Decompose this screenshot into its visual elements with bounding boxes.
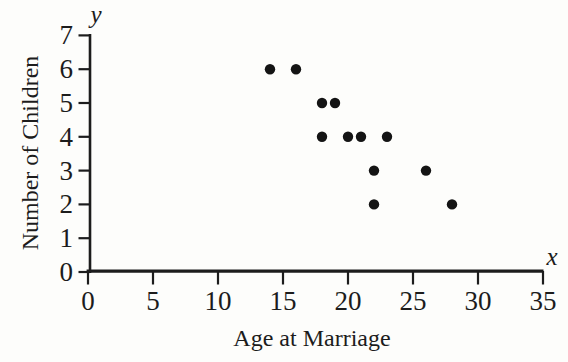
data-point [369,165,379,175]
x-tick-label: 25 [400,286,427,316]
y-tick-label: 4 [60,122,74,152]
x-axis-title: Age at Marriage [233,326,390,350]
data-point [447,199,457,209]
y-tick-label: 5 [60,88,74,118]
data-point [317,132,327,142]
x-tick-label: 5 [146,286,160,316]
data-point [421,165,431,175]
x-axis-symbol: x [546,244,557,269]
data-point [317,98,327,108]
y-tick-label: 0 [60,257,74,287]
x-tick-label: 20 [335,286,362,316]
x-tick-label: 0 [81,286,95,316]
x-tick-label: 10 [205,286,232,316]
x-tick-label: 15 [270,286,297,316]
x-tick-label: 35 [530,286,557,316]
data-point [330,98,340,108]
y-tick-label: 2 [60,189,74,219]
y-tick-label: 6 [60,54,74,84]
y-tick-label: 7 [60,20,74,50]
plot-area: 0123456705101520253035 [0,0,568,362]
y-tick-label: 3 [60,156,74,186]
y-axis-title: Number of Children [18,56,42,251]
data-point [356,132,366,142]
scatter-plot-figure: 0123456705101520253035 Number of Childre… [0,0,568,362]
y-tick-label: 1 [60,223,74,253]
data-point [369,199,379,209]
data-point [382,132,392,142]
y-axis-symbol: y [90,2,101,27]
data-point [291,64,301,74]
data-point [265,64,275,74]
data-point [343,132,353,142]
x-tick-label: 30 [465,286,492,316]
